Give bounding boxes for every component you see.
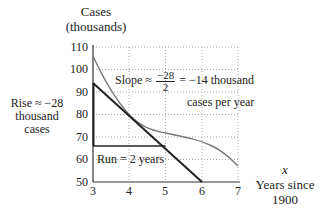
slope-denominator: 2 [156,82,175,93]
y-title-line2: (thousands) [56,19,136,34]
x-tick-6: 6 [196,185,208,198]
x-axis-title: x Years since 1900 [245,162,325,207]
x-title-line1: Years since [245,177,325,192]
y-title-line1: Cases [56,4,136,19]
y-tick-60: 60 [68,153,88,166]
slope-fraction: −28 2 [156,70,175,93]
rise-annotation: Rise ≈ −28 thousand cases [6,97,68,136]
slope-annotation: Slope ≈ −28 2 = −14 thousand [115,70,254,93]
x-tick-4: 4 [123,185,135,198]
y-tick-90: 90 [68,86,88,99]
y-axis-title: Cases (thousands) [56,4,136,34]
y-tick-100: 100 [68,63,88,76]
y-tick-110: 110 [68,41,88,54]
slope-suffix: = −14 thousand [179,73,254,87]
x-title-line2: 1900 [245,192,325,207]
x-tick-7: 7 [232,185,244,198]
x-tick-5: 5 [159,185,171,198]
run-annotation: Run = 2 years [97,153,164,166]
rise-line3: cases [6,123,68,136]
slope-line2: cases per year [187,96,254,109]
x-tick-3: 3 [87,185,99,198]
y-tick-70: 70 [68,131,88,144]
x-variable: x [245,162,325,177]
tangent-line [93,83,202,182]
y-tick-50: 50 [68,176,88,189]
slope-prefix: Slope ≈ [115,73,152,87]
y-tick-80: 80 [68,108,88,121]
